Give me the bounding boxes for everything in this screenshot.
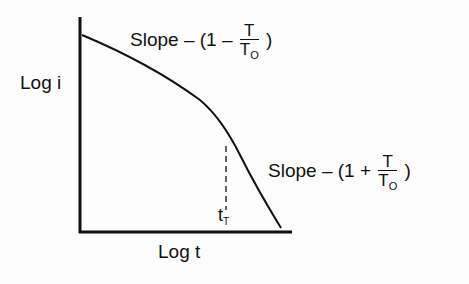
slope-word: Slope: [130, 29, 179, 50]
y-axis-label: Log i: [20, 72, 61, 94]
operator: +: [360, 160, 371, 181]
lower-slope-label: Slope – (1 + TTO ): [268, 153, 411, 191]
dash: –: [322, 160, 333, 181]
dash: –: [184, 29, 195, 50]
upper-slope-label: Slope – (1 – TTO ): [130, 22, 272, 60]
open-paren: (1: [338, 160, 355, 181]
x-axis-label: Log t: [158, 241, 200, 263]
slope-word: Slope: [268, 160, 317, 181]
fraction: TTO: [378, 153, 397, 191]
open-paren: (1: [200, 29, 217, 50]
log-i-curve: [82, 35, 281, 228]
operator: –: [222, 29, 233, 50]
transition-time-label: tT: [218, 205, 229, 226]
close-paren: ): [405, 160, 411, 181]
fraction: TTO: [240, 22, 259, 60]
close-paren: ): [266, 29, 272, 50]
